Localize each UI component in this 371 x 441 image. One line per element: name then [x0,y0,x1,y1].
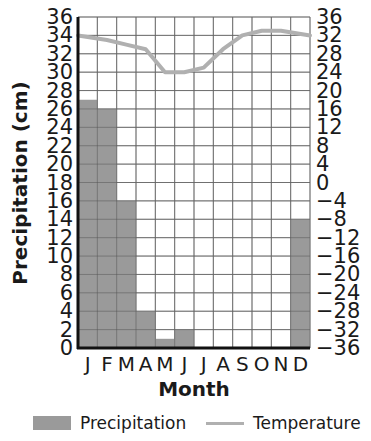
x-tick-label: A [216,352,230,376]
legend-item-precipitation: Precipitation [33,413,186,433]
y-axis-title: Precipitation (cm) [8,81,32,284]
x-tick-label: F [101,352,113,376]
right-tick-label: −36 [316,336,360,360]
x-tick-label: O [254,352,270,376]
x-axis-title: Month [158,377,230,401]
x-tick-label: M [118,352,135,376]
x-tick-label: J [83,352,91,376]
legend: Precipitation Temperature [0,413,371,439]
precipitation-swatch [33,416,71,430]
precipitation-bar [97,109,116,348]
x-tick-label: J [179,352,187,376]
precipitation-bar [175,330,194,348]
temperature-swatch [206,422,244,425]
x-tick-label: A [139,352,153,376]
precipitation-bar [291,219,310,348]
legend-label-precipitation: Precipitation [80,413,186,433]
left-tick-label: 0 [60,336,73,360]
x-tick-label: M [156,352,173,376]
climate-chart: 363432302826242220181614121086420 363228… [0,0,371,410]
x-axis-ticks: JFMAMJJASOND [83,352,308,376]
right-axis-ticks: 36322824201612840−4−8−12−16−20−24−28−32−… [316,5,360,360]
x-tick-label: S [236,352,249,376]
legend-item-temperature: Temperature [206,413,361,433]
x-tick-label: D [293,352,308,376]
x-tick-label: N [274,352,289,376]
left-axis-ticks: 363432302826242220181614121086420 [46,5,73,360]
x-tick-label: J [199,352,207,376]
legend-label-temperature: Temperature [253,413,361,433]
